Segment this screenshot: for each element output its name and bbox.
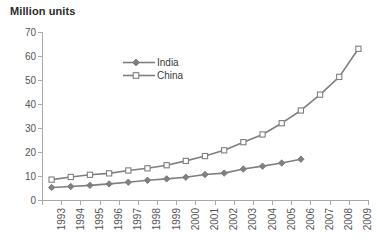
- marker-square: [337, 74, 342, 79]
- marker-square: [202, 153, 207, 158]
- marker-square: [87, 172, 92, 177]
- marker-diamond: [125, 179, 131, 185]
- marker-diamond: [183, 174, 189, 180]
- legend-marker-filled-diamond: [122, 56, 156, 69]
- series-china: [49, 46, 361, 182]
- marker-square: [298, 108, 303, 113]
- marker-diamond: [163, 176, 169, 182]
- marker-square: [222, 148, 227, 153]
- marker-square: [107, 171, 112, 176]
- marker-square: [145, 166, 150, 171]
- series-line: [52, 49, 359, 180]
- legend-marker-hollow-square: [122, 69, 156, 82]
- legend-label: China: [157, 70, 183, 81]
- legend-item-india: India: [122, 56, 183, 69]
- marker-square: [126, 168, 131, 173]
- marker-square: [317, 92, 322, 97]
- marker-square: [260, 132, 265, 137]
- marker-square: [49, 177, 54, 182]
- marker-diamond: [279, 160, 285, 166]
- marker-square: [279, 121, 284, 126]
- legend-label: India: [157, 57, 179, 68]
- marker-diamond: [106, 181, 112, 187]
- marker-diamond: [144, 177, 150, 183]
- marker-diamond: [221, 170, 227, 176]
- legend-item-china: China: [122, 69, 183, 82]
- line-chart: Million units 706050403020100 1993199419…: [0, 0, 377, 248]
- marker-diamond: [48, 184, 54, 190]
- marker-square: [356, 46, 361, 51]
- marker-diamond: [240, 166, 246, 172]
- chart-legend: IndiaChina: [122, 56, 183, 82]
- marker-diamond: [298, 156, 304, 162]
- marker-diamond: [259, 163, 265, 169]
- series-layer: [0, 0, 377, 248]
- marker-diamond: [202, 171, 208, 177]
- marker-diamond: [68, 183, 74, 189]
- series-india: [48, 156, 304, 191]
- marker-square: [241, 140, 246, 145]
- marker-square: [164, 163, 169, 168]
- marker-square: [183, 158, 188, 163]
- marker-diamond: [87, 182, 93, 188]
- marker-square: [68, 174, 73, 179]
